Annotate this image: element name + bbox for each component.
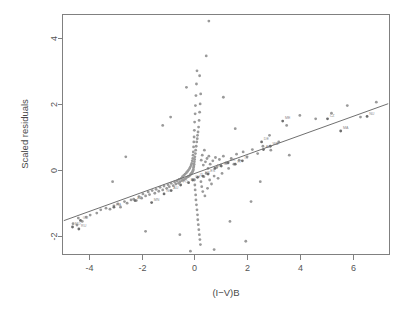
data-point (206, 157, 209, 160)
data-point (251, 148, 254, 151)
data-point-labeled (214, 167, 217, 170)
point-label: RU (81, 224, 87, 228)
data-point-labeled (326, 117, 329, 120)
data-point (168, 185, 171, 188)
data-point (161, 189, 164, 192)
data-point (235, 153, 238, 156)
data-point (217, 177, 220, 180)
data-point (214, 156, 217, 159)
data-point (259, 180, 262, 183)
data-point (193, 184, 196, 187)
point-label: AZ (137, 196, 142, 200)
data-point (200, 159, 203, 162)
data-point (189, 250, 192, 253)
data-point (157, 190, 160, 193)
data-point (195, 94, 198, 97)
data-point (144, 195, 147, 198)
data-point-labeled (113, 206, 116, 209)
data-point (161, 124, 164, 127)
data-point (256, 152, 259, 155)
data-point (195, 145, 198, 148)
data-point (205, 54, 208, 57)
data-point (202, 164, 205, 167)
data-point (209, 163, 212, 166)
data-point-labeled (281, 120, 284, 123)
point-label: NU (369, 112, 375, 116)
data-point (198, 119, 201, 122)
data-point (244, 240, 247, 243)
data-point (194, 104, 197, 107)
data-point (193, 155, 196, 158)
data-point (126, 202, 129, 205)
data-point (213, 248, 216, 251)
data-point-labeled (191, 179, 194, 182)
y-tick-label: 2 (49, 102, 59, 107)
data-point (195, 83, 198, 86)
x-tick-label: 4 (298, 263, 303, 273)
data-point-labeled (196, 176, 199, 179)
scatter-plot-figure: -4-20246 -2024 MORUGUHAAZMNNOAUPOBECHITF… (0, 0, 411, 313)
x-axis-title: (I−V)B (212, 287, 239, 298)
data-point (196, 134, 199, 137)
data-point (200, 180, 203, 183)
point-label: ES (210, 169, 215, 173)
data-point (196, 213, 199, 216)
point-label: IS (245, 156, 249, 160)
data-point (196, 137, 199, 140)
point-label: MA (343, 126, 349, 130)
data-point (218, 158, 221, 161)
point-label: FI (237, 160, 240, 164)
data-point (193, 121, 196, 124)
data-point (227, 167, 230, 170)
data-point-labeled (79, 219, 82, 222)
data-point (198, 111, 201, 114)
point-label: AU (173, 186, 178, 190)
data-point (208, 179, 211, 182)
data-point (196, 218, 199, 221)
data-point-labeled (170, 189, 173, 192)
scatter-points (72, 20, 378, 253)
point-label: DE (264, 137, 270, 141)
data-point-labeled (201, 175, 204, 178)
data-point-labeled (339, 130, 342, 133)
data-point-labeled (71, 226, 74, 229)
y-tick-label: -2 (49, 232, 59, 240)
data-point (193, 129, 196, 132)
data-point-labeled (366, 115, 369, 118)
data-point (197, 131, 200, 134)
data-point (190, 162, 193, 165)
data-point (207, 155, 210, 158)
data-point (195, 203, 198, 206)
data-point (199, 102, 202, 105)
data-point (198, 238, 201, 241)
data-point (196, 69, 199, 72)
point-label: ME (285, 116, 291, 120)
data-point (77, 217, 80, 220)
data-point (89, 214, 92, 217)
data-point-labeled (179, 184, 182, 187)
data-point-labeled (77, 228, 80, 231)
data-point (194, 112, 197, 115)
data-point (198, 74, 201, 77)
data-point (201, 190, 204, 193)
data-point (185, 86, 188, 89)
data-point (144, 230, 147, 233)
data-point (178, 233, 181, 236)
data-point-labeled (207, 173, 210, 176)
data-point (203, 149, 206, 152)
point-label: CZ (330, 114, 336, 118)
point-label: GU (83, 216, 89, 220)
data-point (195, 141, 198, 144)
x-tick-label: 2 (245, 263, 250, 273)
plot-canvas: -4-20246 -2024 MORUGUHAAZMNNOAUPOBECHITF… (0, 0, 411, 313)
data-point (206, 187, 209, 190)
data-point (194, 194, 197, 197)
data-point (229, 220, 232, 223)
data-point (213, 175, 216, 178)
data-point (111, 180, 114, 183)
point-label: HA (116, 203, 122, 207)
data-point (346, 104, 349, 107)
data-point (268, 134, 271, 137)
data-point (95, 212, 98, 215)
data-point (221, 172, 224, 175)
